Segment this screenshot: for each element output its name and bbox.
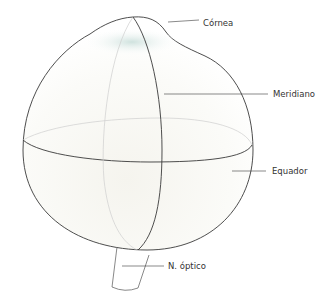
label-equator: Equador <box>272 166 307 176</box>
optic-nerve <box>112 247 149 290</box>
cornea <box>84 28 180 56</box>
label-meridian: Meridiano <box>273 89 315 99</box>
leader-cornea <box>168 20 199 22</box>
label-optic-nerve: N. óptico <box>168 261 206 271</box>
eyeball-diagram <box>0 0 333 295</box>
label-cornea: Córnea <box>203 18 233 28</box>
